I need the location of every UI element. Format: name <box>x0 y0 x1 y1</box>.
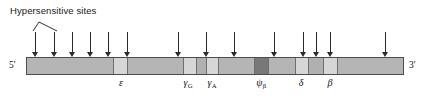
segment-spacer-5 <box>309 58 323 74</box>
gene-subscript-gamma-G: G <box>188 82 193 89</box>
gene-subscript-psi-beta: β <box>263 82 266 89</box>
arrow-shaft <box>35 32 36 52</box>
arrow-shaft <box>234 32 235 52</box>
three-prime-end-label: 3' <box>409 60 415 70</box>
gene-label-gamma-A: γA <box>208 78 217 88</box>
gene-subscript-gamma-A: A <box>212 82 217 89</box>
arrow-shaft <box>316 32 317 52</box>
segment-spacer-1 <box>128 58 183 74</box>
hypersensitive-site-arrow-13 <box>327 32 334 57</box>
arrow-shaft <box>108 32 109 52</box>
arrow-shaft <box>330 32 331 52</box>
gene-label-psi-beta: ψβ <box>256 78 266 88</box>
segment-beta-gene <box>323 58 338 74</box>
arrow-shaft <box>274 32 275 52</box>
segment-delta-gene <box>295 58 309 74</box>
hypersensitive-site-arrow-3 <box>69 32 76 57</box>
segment-spacer-2 <box>197 58 206 74</box>
arrow-shaft <box>72 32 73 52</box>
segment-spacer-3 <box>219 58 254 74</box>
segment-psi-beta-pseudogene <box>254 58 269 74</box>
segment-gamma-G-gene <box>183 58 197 74</box>
gene-label-gamma-G: γG <box>184 78 193 88</box>
segment-epsilon-gene <box>113 58 128 74</box>
gene-label-epsilon: ε <box>119 78 123 88</box>
hypersensitive-site-arrow-14 <box>382 32 389 57</box>
hypersensitive-site-arrow-7 <box>175 32 182 57</box>
arrow-shaft <box>54 32 55 52</box>
segment-spacer-4 <box>269 58 295 74</box>
arrow-shaft <box>303 32 304 52</box>
five-prime-end-label: 5' <box>9 60 15 70</box>
hypersensitive-site-arrow-9 <box>231 32 238 57</box>
arrow-shaft <box>385 32 386 52</box>
hypersensitive-site-arrow-8 <box>203 32 210 57</box>
gene-label-delta: δ <box>299 78 304 88</box>
locus-bar <box>26 57 404 75</box>
hypersensitive-site-arrow-5 <box>105 32 112 57</box>
hypersensitive-site-arrow-10 <box>271 32 278 57</box>
hypersensitive-site-arrow-12 <box>313 32 320 57</box>
arrow-shaft <box>90 32 91 52</box>
segment-gamma-A-gene <box>206 58 219 74</box>
hypersensitive-site-arrow-6 <box>124 32 131 57</box>
hypersensitive-site-arrow-1 <box>32 32 39 57</box>
gene-label-beta: β <box>328 78 333 88</box>
hypersensitive-site-arrow-11 <box>300 32 307 57</box>
arrow-shaft <box>127 32 128 52</box>
hypersensitive-site-arrow-2 <box>51 32 58 57</box>
segment-downstream-region <box>338 58 404 74</box>
arrow-shaft <box>178 32 179 52</box>
segment-upstream-lcr-region <box>27 58 113 74</box>
arrow-shaft <box>206 32 207 52</box>
beta-globin-locus-figure: Hypersensitive sites 5' 3' εγGγAψβδβ <box>0 0 430 97</box>
hypersensitive-site-arrow-4 <box>87 32 94 57</box>
hypersensitive-sites-label: Hypersensitive sites <box>10 5 96 16</box>
